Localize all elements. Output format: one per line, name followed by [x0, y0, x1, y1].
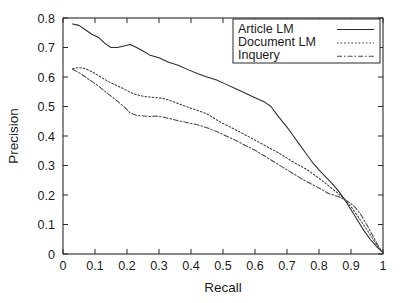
chart-legend: Article LMDocument LMInquery	[233, 19, 380, 63]
y-tick-label: 0.2	[38, 189, 55, 203]
x-tick-label: 1	[380, 259, 387, 273]
x-tick-label: 0.3	[150, 259, 167, 273]
x-tick-labels: 00.10.20.30.40.50.60.70.80.91	[60, 259, 387, 273]
series-line-2	[73, 69, 383, 252]
y-tick-label: 0	[48, 248, 55, 262]
legend-label-0: Article LM	[238, 22, 294, 36]
y-tick-label: 0.6	[38, 71, 55, 85]
y-tick-label: 0.3	[38, 159, 55, 173]
legend-label-1: Document LM	[238, 35, 316, 49]
y-tick-label: 0.1	[38, 218, 55, 232]
y-tick-labels: 00.10.20.30.40.50.60.70.8	[38, 12, 55, 262]
series-line-1	[73, 68, 383, 253]
x-tick-label: 0.8	[310, 259, 327, 273]
x-tick-label: 0	[60, 259, 67, 273]
x-tick-label: 0.7	[278, 259, 295, 273]
y-tick-label: 0.8	[38, 12, 55, 26]
x-tick-label: 0.1	[86, 259, 103, 273]
legend-label-2: Inquery	[238, 48, 280, 62]
x-axis-title: Recall	[204, 280, 242, 295]
y-tick-label: 0.7	[38, 41, 55, 55]
x-tick-label: 0.5	[214, 259, 231, 273]
x-tick-label: 0.2	[118, 259, 135, 273]
precision-recall-chart: 00.10.20.30.40.50.60.70.80.91 00.10.20.3…	[0, 0, 401, 303]
y-tick-label: 0.4	[38, 130, 55, 144]
chart-canvas: 00.10.20.30.40.50.60.70.80.91 00.10.20.3…	[0, 0, 401, 303]
y-tick-label: 0.5	[38, 100, 55, 114]
y-axis-title: Precision	[6, 108, 21, 164]
x-tick-label: 0.9	[342, 259, 359, 273]
x-tick-label: 0.6	[246, 259, 263, 273]
x-tick-label: 0.4	[182, 259, 199, 273]
